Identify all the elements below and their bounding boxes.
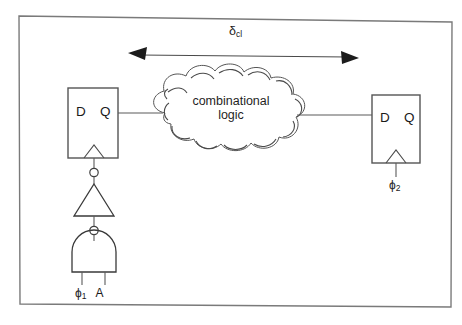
inverter-triangle — [74, 184, 114, 216]
nand-input-labels: ϕ1 A — [75, 287, 103, 302]
flip-flop-1-clock-bubble — [90, 168, 98, 176]
flip-flop-2-body — [372, 95, 420, 163]
flip-flop-2-q-label: Q — [404, 110, 415, 126]
combinational-logic-label: combinational logic — [181, 94, 281, 123]
inverter-gate-graphic — [74, 177, 114, 235]
delay-arrow — [128, 47, 359, 64]
phi1-subscript: 1 — [82, 291, 87, 301]
phi1-label: ϕ1 — [75, 287, 86, 302]
delay-subscript: cl — [236, 29, 242, 39]
flip-flop-2-clock-label: ϕ2 — [389, 179, 400, 194]
flip-flop-1-graphic — [68, 88, 118, 177]
delay-arrow-head-right — [341, 51, 359, 64]
phi1-symbol: ϕ — [75, 286, 82, 300]
phi2-subscript: 2 — [396, 183, 401, 193]
delay-arrow-line — [139, 55, 348, 57]
cloud-line-2: logic — [181, 108, 281, 122]
figure-drawing — [0, 0, 462, 325]
flip-flop-1-body — [68, 88, 118, 158]
nand-gate-graphic — [72, 230, 116, 285]
flip-flop-1-q-label: Q — [100, 104, 111, 120]
phi2-symbol: ϕ — [389, 178, 396, 192]
figure-canvas: δcl D Q combinational logic D Q ϕ2 ϕ1 A — [0, 0, 462, 325]
flip-flop-2-d-label: D — [380, 110, 390, 126]
flip-flop-2-graphic — [372, 95, 420, 177]
delay-arrow-label: δcl — [229, 24, 242, 40]
delay-symbol: δ — [229, 24, 236, 38]
a-input-label: A — [95, 287, 103, 301]
delay-arrow-head-left — [128, 47, 147, 60]
flip-flop-1-d-label: D — [76, 104, 86, 120]
cloud-line-1: combinational — [181, 94, 281, 108]
